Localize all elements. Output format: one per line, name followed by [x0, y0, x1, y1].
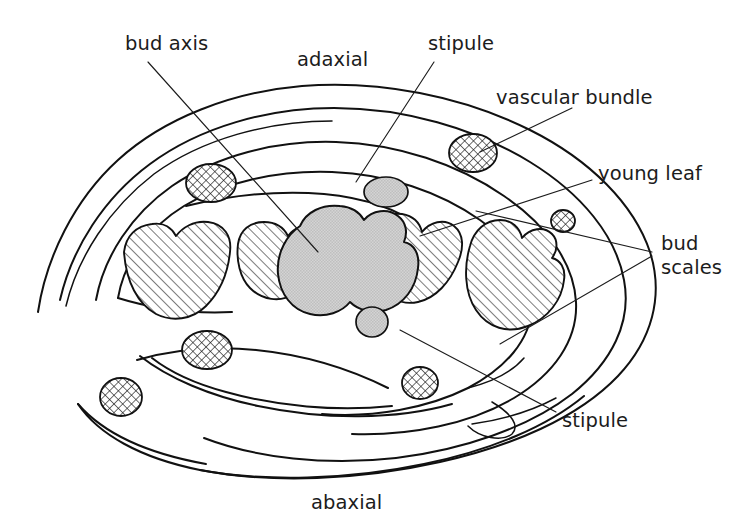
label-bud-scales-line2: scales: [661, 256, 722, 279]
stipule-lower: [356, 307, 388, 337]
label-stipule-bottom: stipule: [562, 409, 628, 432]
vascular-bundle-4: [100, 378, 142, 416]
label-stipule-top: stipule: [428, 32, 494, 55]
label-young-leaf: young leaf: [598, 162, 703, 185]
stipule-upper: [364, 177, 408, 207]
label-vascular-bundle: vascular bundle: [496, 86, 653, 109]
leader-stipule-top: [356, 62, 434, 182]
vascular-bundle-2: [449, 134, 497, 172]
label-bud-axis: bud axis: [125, 32, 208, 55]
vascular-bundle-1: [186, 164, 236, 202]
label-adaxial: adaxial: [297, 48, 368, 71]
diagram-canvas: bud axis adaxial stipule vascular bundle…: [0, 0, 744, 532]
label-bud-scales-line1: bud: [661, 232, 698, 255]
vascular-bundle-3: [182, 331, 232, 369]
leader-bud-axis: [148, 62, 318, 252]
bud-cross-section-figure: bud axis adaxial stipule vascular bundle…: [0, 0, 744, 532]
young-leaf-right: [466, 220, 564, 329]
bud-axis-organ: [278, 206, 419, 316]
vascular-bundle-6: [551, 210, 575, 232]
label-abaxial: abaxial: [311, 491, 382, 514]
vascular-bundle-5: [402, 367, 438, 399]
